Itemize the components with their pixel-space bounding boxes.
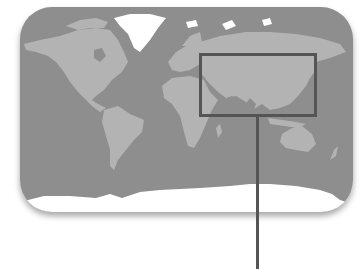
world-map — [0, 0, 360, 269]
world-map-figure — [0, 0, 360, 269]
